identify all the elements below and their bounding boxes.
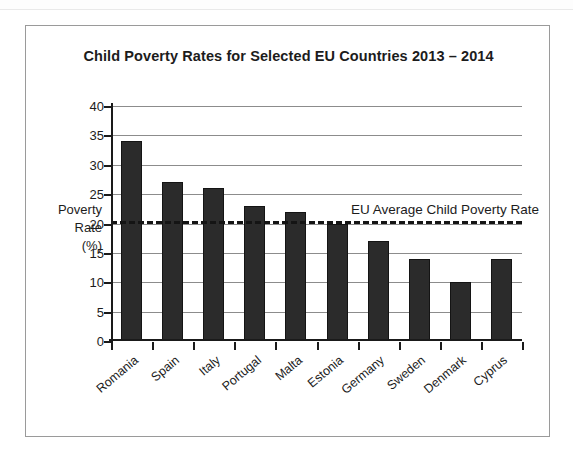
y-tick-label: 35 [90, 128, 104, 143]
y-tick-label: 15 [90, 245, 104, 260]
y-tick-label: 5 [97, 304, 104, 319]
chart-figure-frame: Child Poverty Rates for Selected EU Coun… [25, 25, 550, 437]
x-tick-mark [275, 342, 277, 350]
bar-portugal [244, 206, 265, 341]
y-tick-mark [104, 224, 111, 226]
y-tick-label: 0 [97, 334, 104, 349]
x-tick-mark [152, 342, 154, 350]
chart-title: Child Poverty Rates for Selected EU Coun… [26, 48, 551, 64]
scan-edge-artifact [0, 0, 573, 10]
y-tick-label: 40 [90, 99, 104, 114]
x-tick-mark [481, 342, 483, 350]
x-tick-mark [317, 342, 319, 350]
y-tick-mark [104, 194, 111, 196]
bar-germany [368, 241, 389, 341]
y-tick-mark [104, 282, 111, 284]
eu-average-line-label: EU Average Child Poverty Rate [351, 202, 539, 217]
y-tick-mark [104, 135, 111, 137]
bar-malta [285, 212, 306, 341]
y-tick-label: 30 [90, 157, 104, 172]
x-tick-label-italy: Italy [214, 338, 241, 363]
x-tick-mark [193, 342, 195, 350]
bar-romania [121, 141, 142, 341]
x-tick-mark [358, 342, 360, 350]
y-tick-mark [104, 165, 111, 167]
y-tick-label: 10 [90, 275, 104, 290]
bar-estonia [327, 224, 348, 342]
y-tick-mark [104, 312, 111, 314]
y-tick-mark [104, 106, 111, 108]
bar-italy [203, 188, 224, 341]
y-tick-label: 25 [90, 187, 104, 202]
x-axis-line [109, 339, 522, 341]
eu-average-line [111, 221, 522, 224]
y-tick-mark [104, 341, 111, 343]
x-tick-mark [234, 342, 236, 350]
x-tick-mark [440, 342, 442, 350]
plot-area: 0510152025303540 RomaniaSpainItalyPortug… [111, 106, 522, 341]
y-tick-label: 20 [90, 216, 104, 231]
y-axis-line [111, 103, 113, 344]
x-tick-mark [399, 342, 401, 350]
x-tick-mark [522, 342, 524, 350]
bar-spain [162, 182, 183, 341]
y-tick-mark [104, 253, 111, 255]
